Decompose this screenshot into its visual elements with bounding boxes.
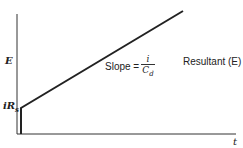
plot-lines xyxy=(0,0,243,148)
intercept-text: iR xyxy=(3,100,15,111)
slope-denominator: Cd xyxy=(142,65,153,79)
diagram-canvas: E t iRs Slope = i Cd Resultant (E) xyxy=(0,0,243,148)
slope-fraction: i Cd xyxy=(141,54,155,79)
y-axis-label: E xyxy=(5,55,13,66)
x-axis-label: t xyxy=(233,136,237,147)
slope-numerator: i xyxy=(147,54,150,64)
intercept-subscript: s xyxy=(15,105,19,114)
denominator-subscript: d xyxy=(149,70,153,78)
intercept-label: iRs xyxy=(3,100,19,114)
slope-label: Slope = xyxy=(105,61,139,72)
resultant-label: Resultant (E) xyxy=(183,56,241,67)
resultant-curve xyxy=(21,11,183,134)
